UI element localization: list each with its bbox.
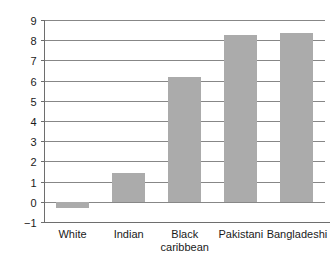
bar — [168, 77, 201, 202]
y-tick-label: 8 — [30, 35, 36, 47]
bar-chart: −10123456789 WhiteIndianBlackcaribbeanPa… — [0, 0, 336, 264]
category-label: caribbean — [161, 241, 209, 253]
y-tick-label: 0 — [30, 197, 36, 209]
bars-group — [56, 33, 313, 208]
bar — [280, 33, 313, 202]
y-tick-label: −1 — [24, 217, 37, 229]
category-label: Bangladeshi — [267, 228, 328, 240]
category-labels-group: WhiteIndianBlackcaribbeanPakistaniBangla… — [58, 228, 327, 253]
chart-canvas: −10123456789 WhiteIndianBlackcaribbeanPa… — [0, 0, 336, 264]
category-label: Pakistani — [219, 228, 264, 240]
y-tick-label: 6 — [30, 76, 36, 88]
y-tick-label: 2 — [30, 156, 36, 168]
bar — [56, 202, 89, 208]
category-label: Indian — [114, 228, 144, 240]
category-label: Black — [171, 228, 198, 240]
y-tick-label: 1 — [30, 177, 36, 189]
y-tick-label: 3 — [30, 136, 36, 148]
bar — [224, 35, 257, 202]
y-tick-label: 4 — [30, 116, 36, 128]
ytick-labels-group: −10123456789 — [24, 15, 37, 229]
bar — [112, 173, 145, 202]
y-tick-label: 5 — [30, 96, 36, 108]
y-tick-label: 7 — [30, 55, 36, 67]
y-tick-label: 9 — [30, 15, 36, 27]
category-label: White — [58, 228, 86, 240]
